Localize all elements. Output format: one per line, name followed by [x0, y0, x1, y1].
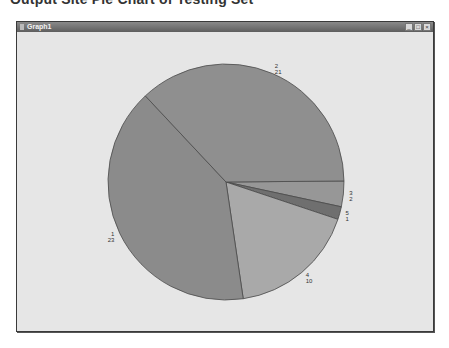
chart-area: 3251410123221 [17, 32, 433, 331]
close-button[interactable]: × [423, 23, 431, 31]
window-app-icon [20, 24, 24, 30]
maximize-button[interactable]: □ [414, 23, 422, 31]
slice-value-label: 1 [346, 216, 350, 222]
graph-window: Graph1 _ □ × 3251410123221 [16, 21, 434, 332]
slice-value-label: 23 [108, 237, 115, 243]
slice-value-label: 2 [349, 196, 353, 202]
minimize-button[interactable]: _ [405, 23, 413, 31]
window-controls: _ □ × [405, 23, 431, 31]
slice-value-label: 10 [306, 278, 313, 284]
pie-chart: 3251410123221 [17, 32, 433, 331]
slice-value-label: 21 [275, 69, 282, 75]
window-title: Graph1 [27, 22, 52, 32]
window-titlebar[interactable]: Graph1 _ □ × [17, 22, 433, 32]
figure-caption: Output Site Pie Chart of Testing Set [10, 0, 253, 7]
